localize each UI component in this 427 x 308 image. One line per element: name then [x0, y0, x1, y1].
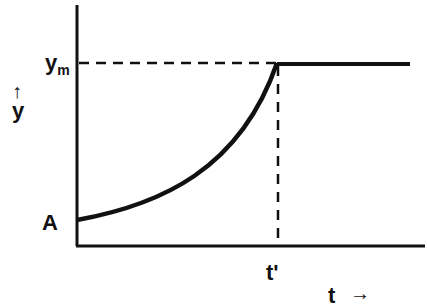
ym-label: ym — [45, 50, 70, 78]
y-axis-label: y — [12, 98, 25, 123]
t-prime-label: t' — [266, 260, 279, 285]
rising-curve — [77, 63, 277, 220]
x-axis-label: t — [328, 283, 336, 308]
diagram: ym ↑ y A t' t → — [0, 0, 427, 308]
start-value-label: A — [42, 210, 58, 235]
right-arrow-icon: → — [350, 282, 370, 304]
